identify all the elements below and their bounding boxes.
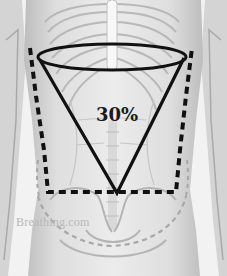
anatomy-illustration: [0, 0, 227, 276]
watermark-text: Breathing.com: [16, 215, 90, 230]
anatomy-figure: 30% Breathing.com: [0, 0, 227, 276]
percentage-label: 30%: [96, 104, 138, 125]
